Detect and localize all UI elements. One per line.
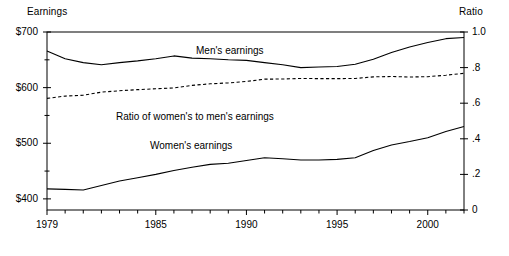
series-annotation-2: Women's earnings <box>150 140 232 151</box>
xtick-label-4: 2000 <box>408 219 448 230</box>
ytick-label-right-3: .6 <box>472 97 480 108</box>
ytick-label-left-0: $400 <box>0 193 38 204</box>
ytick-label-right-5: 1.0 <box>472 26 486 37</box>
xtick-label-2: 1990 <box>226 219 266 230</box>
xtick-label-0: 1979 <box>27 219 67 230</box>
ytick-label-right-4: .8 <box>472 62 480 73</box>
ytick-label-left-1: $500 <box>0 137 38 148</box>
series-line-1 <box>47 127 464 190</box>
chart-container: Earnings Ratio $400$500$600$7000.2.4.6.8… <box>0 0 509 256</box>
xtick-label-1: 1985 <box>136 219 176 230</box>
xtick-label-3: 1995 <box>317 219 357 230</box>
series-annotation-0: Men's earnings <box>196 45 264 56</box>
ytick-label-right-0: 0 <box>472 204 478 215</box>
chart-plot-area <box>0 0 509 256</box>
series-line-2 <box>47 73 464 98</box>
series-annotation-1: Ratio of women's to men's earnings <box>116 111 274 122</box>
ytick-label-right-1: .2 <box>472 168 480 179</box>
ytick-label-left-3: $700 <box>0 26 38 37</box>
ytick-label-right-2: .4 <box>472 133 480 144</box>
ytick-label-left-2: $600 <box>0 82 38 93</box>
